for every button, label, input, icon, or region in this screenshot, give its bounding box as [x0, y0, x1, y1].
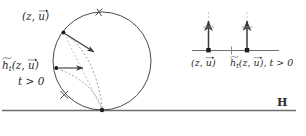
axis-arrow-z-u-base-dot: [206, 48, 210, 52]
label-ht-comma: ,: [21, 59, 28, 71]
label-point-ht-z-u: ht(z, u): [2, 60, 39, 72]
label-axis-ht-u: u: [254, 57, 260, 68]
label-t-positive: t > 0: [18, 76, 44, 87]
label-boundary-H-glyph: H: [277, 97, 288, 108]
horocycle-circle: [53, 12, 151, 110]
axis-arrow-ht-z-u-base-dot: [245, 48, 249, 52]
direction-arrow-z-u: [66, 34, 95, 52]
geodesic-dashed-from-ht-z-u: [58, 69, 103, 110]
label-ht-h-tilde: h: [2, 60, 9, 71]
label-z-u-u: u: [38, 10, 45, 22]
label-z-u-close-paren: ): [45, 10, 49, 22]
horocycle-circle-group: [53, 9, 151, 113]
label-boundary-H: H: [277, 97, 288, 108]
label-axis-z-u-close-paren: ): [212, 57, 216, 68]
label-z-u-comma: ,: [32, 10, 39, 22]
label-axis-z-u-u-vector: u: [206, 58, 212, 68]
tangency-point-dot: [100, 108, 104, 112]
label-axis-ht-h-tilde: h: [230, 58, 236, 68]
boundary-axis-group: [192, 12, 279, 55]
label-ht-u: u: [28, 59, 35, 71]
label-z-u-u-vector: u: [38, 11, 45, 22]
label-ht-close-paren: ): [35, 59, 39, 71]
label-point-z-u: (z, u): [22, 11, 49, 22]
label-axis-ht-h: h: [230, 57, 236, 68]
label-ht-h: h: [2, 59, 9, 71]
point-z-u-dot: [62, 31, 66, 35]
label-axis-ht-suffix: , t > 0: [263, 57, 293, 68]
point-ht-z-u-dot: [54, 66, 58, 70]
figure-root: (z, u) ht(z, u) t > 0 (z, u) ht(z, u), t…: [0, 0, 306, 136]
label-axis-z-u-u: u: [206, 57, 212, 68]
label-axis-ht-u-vector: u: [254, 58, 260, 68]
label-ht-u-vector: u: [28, 60, 35, 71]
label-axis-ht-z-u: ht(z, u), t > 0: [230, 58, 293, 70]
label-axis-z-u: (z, u): [191, 58, 216, 68]
